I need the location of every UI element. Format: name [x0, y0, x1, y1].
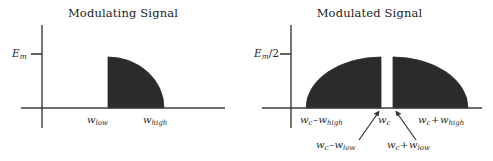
x-tick-label-whigh-subscript: high	[152, 119, 168, 127]
lower-sideband-area	[306, 57, 381, 108]
x-tick-label-wc-minus-whigh: wc–whigh	[300, 114, 343, 127]
wc-minus-wlow-base: w	[316, 139, 325, 150]
callout-arrow-lower	[359, 111, 380, 140]
callout-label-wc-minus-wlow: wc–wlow	[316, 139, 356, 152]
wc-plus-wlow-operator: +	[399, 139, 408, 150]
x-tick-label-wlow-base: w	[87, 114, 96, 125]
y-axis-label-em-half: Em/2	[254, 47, 279, 61]
wc-base: w	[378, 114, 387, 125]
callout-label-wc-plus-wlow: wc+wlow	[387, 139, 430, 152]
panel-modulated-signal: Modulated Signal Em/2	[246, 0, 493, 161]
x-tick-label-wlow-subscript: low	[96, 119, 108, 127]
wc-plus-wlow-base: w	[387, 139, 396, 150]
callout-arrow-upper	[395, 111, 416, 140]
wc-subscript: c	[387, 119, 391, 127]
baseband-spectrum-area	[108, 57, 164, 108]
y-axis-label-em-half-base: E	[254, 47, 262, 59]
upper-sideband-area	[393, 57, 468, 108]
y-axis-label-em-subscript: m	[20, 52, 27, 61]
x-tick-label-wlow: wlow	[87, 114, 108, 127]
wc-plus-whigh-subscript2: high	[448, 119, 464, 127]
modulating-signal-plot	[0, 0, 246, 161]
wc-plus-wlow-subscript2: low	[417, 144, 429, 152]
wc-minus-wlow-base2: w	[334, 139, 343, 150]
wc-plus-whigh-operator: +	[430, 114, 439, 125]
wc-minus-whigh-base2: w	[318, 114, 327, 125]
panel-modulating-signal: Modulating Signal Em wlow whigh	[0, 0, 246, 161]
figure-container: Modulating Signal Em wlow whigh Modulate…	[0, 0, 493, 161]
wc-minus-wlow-subscript2: low	[343, 144, 355, 152]
y-axis-label-em-base: E	[12, 47, 20, 59]
wc-minus-whigh-subscript2: high	[327, 119, 343, 127]
wc-plus-whigh-base: w	[418, 114, 427, 125]
modulated-signal-plot	[246, 0, 493, 161]
wc-minus-whigh-base: w	[300, 114, 309, 125]
y-axis-label-em: Em	[12, 47, 27, 61]
y-axis-label-em-half-suffix: /2	[269, 47, 279, 59]
x-tick-label-wc: wc	[378, 114, 390, 127]
y-axis-label-em-half-subscript: m	[262, 52, 269, 61]
x-tick-label-whigh: whigh	[143, 114, 167, 127]
x-tick-label-whigh-base: w	[143, 114, 152, 125]
x-tick-label-wc-plus-whigh: wc+whigh	[418, 114, 464, 127]
